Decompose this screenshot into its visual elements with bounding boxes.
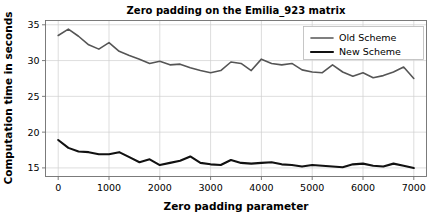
x-tick-label: 4000 [249,182,273,193]
x-tick-label: 5000 [300,182,324,193]
x-tick-label: 2000 [148,182,172,193]
x-tick-label: 0 [55,182,61,193]
line-chart: Zero padding on the Emilia_923 matrix 01… [0,0,440,218]
x-axis-label: Zero padding parameter [164,200,310,212]
y-tick-label: 15 [27,162,39,173]
x-tick-label: 7000 [402,182,426,193]
y-tick-label: 25 [27,91,39,102]
chart-title: Zero padding on the Emilia_923 matrix [127,5,346,17]
chart-legend[interactable]: Old SchemeNew Scheme [304,27,424,60]
legend-label-new-scheme: New Scheme [339,46,401,57]
y-axis-label: Computation time in seconds [2,11,14,184]
chart-figure: Zero padding on the Emilia_923 matrix 01… [0,0,440,218]
legend-label-old-scheme: Old Scheme [339,32,397,43]
y-tick-label: 30 [27,55,39,66]
x-tick-label: 6000 [351,182,375,193]
y-tick-label: 35 [27,19,39,30]
x-tick-label: 1000 [97,182,121,193]
x-tick-label: 3000 [199,182,223,193]
y-tick-label: 20 [27,127,39,138]
